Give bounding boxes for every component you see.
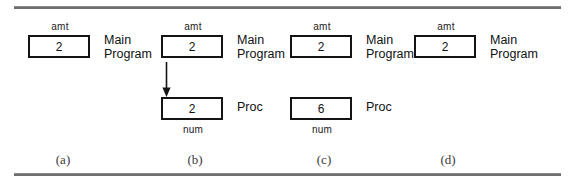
memory-cell-num: 2 <box>161 97 223 120</box>
variable-label-num: num <box>290 124 354 136</box>
memory-cell-amt: 2 <box>414 35 476 58</box>
memory-cell-num: 6 <box>290 97 352 120</box>
memory-cell-amt: 2 <box>161 35 223 58</box>
subcaption-c: (c) <box>289 152 359 168</box>
variable-label-amt: amt <box>414 21 478 33</box>
panel-b: amt 2 Main Program 2 num Proc (b) <box>131 0 274 186</box>
variable-label-amt: amt <box>28 21 92 33</box>
bottom-rule <box>14 173 561 176</box>
scope-label-proc: Proc <box>237 100 263 114</box>
panel-a: amt 2 Main Program (a) <box>0 0 143 186</box>
subcaption-a: (a) <box>28 152 98 168</box>
variable-label-amt: amt <box>290 21 354 33</box>
parameter-pass-arrow-icon <box>161 62 172 98</box>
variable-label-num: num <box>161 124 225 136</box>
subcaption-d: (d) <box>413 152 483 168</box>
figure-canvas: amt 2 Main Program (a) amt 2 Main Progra… <box>0 0 575 186</box>
variable-label-amt: amt <box>161 21 225 33</box>
panel-d: amt 2 Main Program (d) <box>385 0 528 186</box>
panel-c: amt 2 Main Program 6 num Proc (c) <box>262 0 405 186</box>
subcaption-b: (b) <box>160 152 230 168</box>
memory-cell-amt: 2 <box>290 35 352 58</box>
scope-label-main-program: Main Program <box>490 33 538 61</box>
memory-cell-amt: 2 <box>28 35 90 58</box>
